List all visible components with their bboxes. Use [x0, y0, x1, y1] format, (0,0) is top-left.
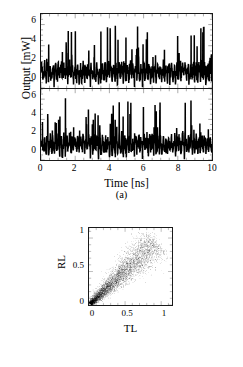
panel-a-xtick-10: 10 — [204, 163, 220, 173]
scatter-plot — [88, 227, 173, 306]
panel-b-xlabel: TL — [88, 322, 173, 334]
panel-a-xtick-0: 0 — [32, 163, 48, 173]
panel-a-top-ytick-0: 0 — [22, 72, 36, 82]
panel-b-xtick-1: 1 — [155, 308, 173, 318]
panel-b-ytick-0.5: 0.5 — [68, 260, 84, 270]
panel-a-bottom-ytick-2: 2 — [22, 126, 36, 136]
panel-a-top-ytick-2: 2 — [22, 53, 36, 63]
panel-a-xtick-4: 4 — [101, 163, 117, 173]
timeseries-bottom-plot — [40, 88, 213, 161]
timeseries-top-plot — [40, 13, 213, 89]
panel-a-bottom-ytick-0: 0 — [22, 145, 36, 155]
panel-a-xtick-6: 6 — [135, 163, 151, 173]
timeseries-bottom-canvas — [41, 89, 212, 160]
panel-b-ylabel: RL — [55, 242, 67, 282]
panel-a-xtick-2: 2 — [66, 163, 82, 173]
panel-b-ytick-0: 0 — [68, 296, 84, 306]
panel-b-ytick-1: 1 — [68, 225, 84, 235]
panel-a-top-ytick-6: 6 — [22, 15, 36, 25]
panel-a-top-ytick-4: 4 — [22, 34, 36, 44]
panel-a-bottom-ytick-6: 6 — [22, 90, 36, 100]
panel-b-scatter: RL 1 0.5 0 0 0.5 1 TL (b) — [0, 200, 243, 367]
timeseries-top-canvas — [41, 14, 212, 88]
panel-a-bottom-ytick-4: 4 — [22, 108, 36, 118]
scatter-canvas — [89, 228, 172, 305]
panel-a-caption: (a) — [0, 189, 243, 200]
panel-a-timeseries: Output [mW] 6 4 2 0 6 4 2 0 0 2 4 6 8 10… — [0, 0, 243, 200]
panel-b-xtick-0: 0 — [83, 308, 101, 318]
panel-b-xtick-0.5: 0.5 — [118, 308, 136, 318]
panel-a-xlabel: Time [ns] — [40, 177, 213, 189]
panel-a-xtick-8: 8 — [170, 163, 186, 173]
